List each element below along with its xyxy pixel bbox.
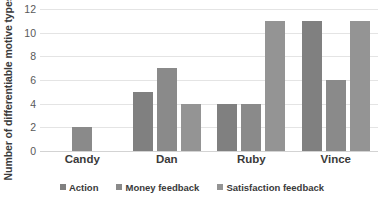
bar[interactable]	[241, 104, 261, 151]
legend-swatch-icon	[116, 184, 122, 190]
legend-item[interactable]: Satisfaction feedback	[217, 182, 324, 193]
plot-area	[40, 9, 378, 151]
y-tick-label: 10	[24, 27, 36, 39]
bar[interactable]	[181, 104, 201, 151]
y-axis-title-text: Number of differentiable motive types	[2, 0, 14, 180]
bar[interactable]	[350, 21, 370, 151]
legend: ActionMoney feedbackSatisfaction feedbac…	[0, 179, 384, 195]
bar-group	[294, 9, 379, 151]
legend-swatch-icon	[60, 184, 66, 190]
x-axis-label: Dan	[125, 153, 210, 173]
legend-label: Money feedback	[125, 182, 199, 193]
x-axis-label: Vince	[294, 153, 379, 173]
x-axis-category-labels: CandyDanRubyVince	[40, 153, 378, 173]
legend-item[interactable]: Money feedback	[116, 182, 199, 193]
y-tick-label: 12	[24, 3, 36, 15]
bar[interactable]	[217, 104, 237, 151]
y-axis-title: Number of differentiable motive types	[0, 0, 16, 176]
bars-layer	[40, 9, 378, 151]
y-tick-label: 0	[30, 145, 36, 157]
y-tick-label: 8	[30, 50, 36, 62]
bar[interactable]	[72, 127, 92, 151]
bar[interactable]	[133, 92, 153, 151]
legend-swatch-icon	[217, 184, 223, 190]
y-axis-tick-labels: 024681012	[16, 9, 38, 151]
legend-label: Satisfaction feedback	[226, 182, 324, 193]
bar-group	[209, 9, 294, 151]
y-tick-label: 4	[30, 98, 36, 110]
bar-group	[125, 9, 210, 151]
bar-group	[40, 9, 125, 151]
bar[interactable]	[302, 21, 322, 151]
bar[interactable]	[157, 68, 177, 151]
x-axis-label: Ruby	[209, 153, 294, 173]
bar-chart: Number of differentiable motive types 02…	[0, 0, 384, 200]
y-tick-label: 6	[30, 74, 36, 86]
legend-item[interactable]: Action	[60, 182, 99, 193]
x-axis-label: Candy	[40, 153, 125, 173]
bar[interactable]	[326, 80, 346, 151]
bar[interactable]	[265, 21, 285, 151]
axis-baseline	[40, 151, 378, 152]
y-tick-label: 2	[30, 121, 36, 133]
legend-label: Action	[69, 182, 99, 193]
